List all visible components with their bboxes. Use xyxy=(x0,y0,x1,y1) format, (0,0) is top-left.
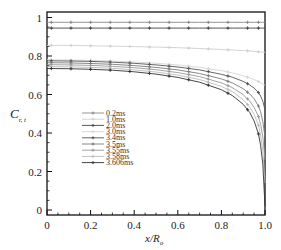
legend-marker xyxy=(92,161,95,164)
series-marker xyxy=(207,70,210,73)
series-marker xyxy=(246,76,249,79)
x-tick-label: 0.4 xyxy=(127,219,141,231)
series-marker xyxy=(207,26,210,29)
series-marker xyxy=(187,78,190,81)
series-marker xyxy=(257,132,260,135)
y-tick-label: 1 xyxy=(37,12,43,24)
x-tick-label: 0.8 xyxy=(215,219,229,231)
legend-marker xyxy=(92,149,95,152)
series-marker xyxy=(167,46,170,49)
series-marker xyxy=(257,124,260,127)
y-axis-title: Cr, t xyxy=(10,106,27,124)
legend-marker xyxy=(92,124,95,127)
y-tick-label: 0.6 xyxy=(28,89,42,101)
x-tick-label: 0.2 xyxy=(84,219,98,231)
series-marker xyxy=(257,115,260,118)
x-tick-label: 0.6 xyxy=(171,219,185,231)
series-marker xyxy=(128,70,131,73)
legend-marker xyxy=(92,118,95,121)
series-marker xyxy=(226,48,229,51)
series-marker xyxy=(69,67,72,70)
series-marker xyxy=(207,84,210,87)
series-marker xyxy=(226,74,229,77)
series-marker xyxy=(257,21,260,24)
series-marker xyxy=(246,21,249,24)
series-marker xyxy=(226,70,229,73)
plot-frame xyxy=(47,12,265,215)
series-marker xyxy=(69,21,72,24)
x-tick-label: 0 xyxy=(44,219,50,231)
series-marker xyxy=(187,67,190,70)
series-marker xyxy=(226,84,229,87)
y-tick-label: 0.4 xyxy=(28,127,42,139)
series-marker xyxy=(257,26,260,29)
series-marker xyxy=(167,26,170,29)
line-chart: 00.20.40.60.81.000.20.40.60.81 0.2ms1.0m… xyxy=(0,0,281,250)
series-line xyxy=(47,67,265,184)
series-marker xyxy=(148,72,151,75)
legend: 0.2ms1.0ms2.0ms3.0ms3.4ms3.5ms3.55ms3.58… xyxy=(82,109,133,168)
legend-marker xyxy=(92,112,95,115)
series-marker xyxy=(50,26,53,29)
series-marker xyxy=(207,78,210,81)
series-marker xyxy=(109,21,112,24)
series-marker xyxy=(109,45,112,48)
series-1.0ms xyxy=(47,44,265,54)
legend-marker xyxy=(92,155,95,158)
series-marker xyxy=(128,21,131,24)
series-marker xyxy=(69,26,72,29)
legend-entry: 3.606ms xyxy=(82,158,133,167)
legend-marker xyxy=(92,136,95,139)
legend-label: 3.606ms xyxy=(106,158,133,167)
series-marker xyxy=(207,21,210,24)
series-marker xyxy=(148,26,151,29)
series-marker xyxy=(50,44,53,47)
series-marker xyxy=(167,65,170,68)
series-marker xyxy=(50,67,53,70)
series-marker xyxy=(207,47,210,50)
series-marker xyxy=(167,21,170,24)
series-line xyxy=(47,61,265,110)
series-marker xyxy=(109,26,112,29)
series-marker xyxy=(257,50,260,53)
series-marker xyxy=(226,88,229,91)
series-marker xyxy=(89,44,92,47)
x-axis-title: x/Ro xyxy=(144,232,164,247)
series-0.2ms xyxy=(47,21,265,24)
series-marker xyxy=(226,26,229,29)
series-marker xyxy=(226,80,229,83)
series-marker xyxy=(89,21,92,24)
y-tick-label: 0.2 xyxy=(28,166,42,178)
series-marker xyxy=(187,70,190,73)
series-2.0ms xyxy=(47,26,265,29)
series-marker xyxy=(207,74,210,77)
plot-area: 00.20.40.60.81.000.20.40.60.81 xyxy=(28,12,272,232)
series-marker xyxy=(167,74,170,77)
series-marker xyxy=(148,45,151,48)
series-marker xyxy=(128,26,131,29)
series-marker xyxy=(89,68,92,71)
series-marker xyxy=(69,44,72,47)
series-line xyxy=(47,65,265,160)
series-marker xyxy=(226,21,229,24)
legend-marker xyxy=(92,143,95,146)
series-line xyxy=(47,69,265,207)
series-marker xyxy=(89,26,92,29)
series-marker xyxy=(187,21,190,24)
series-marker xyxy=(148,21,151,24)
series-marker xyxy=(187,47,190,50)
series-marker xyxy=(246,49,249,52)
series-marker xyxy=(207,67,210,70)
y-tick-label: 0 xyxy=(37,204,43,216)
series-marker xyxy=(246,26,249,29)
series-marker xyxy=(109,69,112,72)
series-marker xyxy=(50,21,53,24)
series-group xyxy=(47,21,265,206)
legend-marker xyxy=(92,130,95,133)
series-line xyxy=(47,45,265,52)
series-marker xyxy=(207,81,210,84)
x-tick-label: 1.0 xyxy=(258,219,272,231)
series-marker xyxy=(128,45,131,48)
y-tick-label: 0.8 xyxy=(28,50,42,62)
series-marker xyxy=(187,26,190,29)
